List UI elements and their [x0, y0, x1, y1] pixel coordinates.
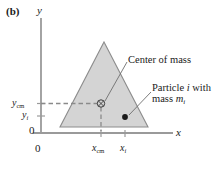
particle-annotation-line2: mass mi: [152, 93, 211, 104]
x-i-tick-label: xi: [120, 143, 126, 154]
center-of-mass-annotation: Center of mass: [128, 54, 191, 65]
panel-label: (b): [6, 6, 19, 18]
y-cm-tick-label: ycm: [12, 98, 24, 109]
x-axis-label: x: [176, 127, 181, 139]
y-i-tick-label: yi: [22, 110, 28, 121]
particle-annotation: Particle i with mass mi: [152, 82, 211, 104]
origin-label-y: 0: [29, 125, 35, 137]
center-of-mass-figure: (b) y x 0 0 ycm yi xcm xi Center of mass…: [0, 0, 220, 171]
filled-dot-marker: [122, 114, 128, 120]
x-cm-tick-label: xcm: [92, 143, 104, 154]
particle-annotation-line1: Particle i with: [152, 82, 211, 93]
y-axis-label: y: [37, 5, 42, 17]
origin-label-x: 0: [35, 143, 41, 155]
circled-cross-marker: [97, 100, 104, 107]
